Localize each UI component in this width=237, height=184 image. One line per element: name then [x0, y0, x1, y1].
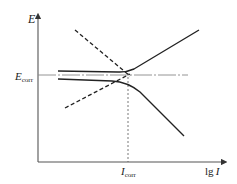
- ecorr-label: Ecorr: [15, 71, 33, 84]
- y-axis-label: E: [28, 13, 35, 25]
- cathodic-tafel-extrapolation: [75, 30, 130, 76]
- x-axis-label-prefix: lg: [205, 165, 214, 177]
- x-axis-label: lg I: [205, 166, 219, 177]
- anodic-polarization-curve: [58, 30, 199, 72]
- ecorr-label-main: E: [15, 70, 22, 82]
- x-axis-label-variable: I: [216, 165, 220, 177]
- y-axis-label-text: E: [28, 12, 35, 26]
- ecorr-label-subscript: corr: [22, 76, 33, 84]
- cathodic-polarization-curve: [58, 79, 184, 136]
- diagram-canvas: [0, 0, 237, 184]
- icorr-label-subscript: corr: [125, 171, 136, 179]
- icorr-label: Icorr: [121, 166, 136, 179]
- polarization-diagram: E Ecorr Icorr lg I: [0, 0, 237, 184]
